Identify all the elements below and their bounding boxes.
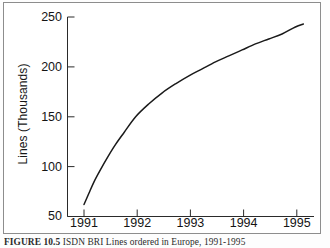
x-axis-tick-labels: 1991 1992 1993 1994 1995 [4, 217, 322, 235]
y-axis-title: Lines (Thousands) [16, 39, 30, 189]
x-tick-label-1991: 1991 [58, 217, 110, 230]
y-tick-label-150: 150 [26, 111, 62, 124]
x-tick-label-1995: 1995 [271, 217, 323, 230]
figure-number: FIGURE 10.5 [4, 237, 60, 247]
figure-container: 250 200 150 100 50 1991 1992 1993 1994 1… [0, 0, 330, 248]
y-tick-label-250: 250 [26, 11, 62, 24]
plot-area: 250 200 150 100 50 1991 1992 1993 1994 1… [4, 3, 322, 235]
x-tick-label-1993: 1993 [164, 217, 216, 230]
y-axis-ticks [68, 17, 75, 217]
x-tick-label-1994: 1994 [218, 217, 270, 230]
data-series-line [84, 24, 303, 205]
x-tick-label-1992: 1992 [111, 217, 163, 230]
y-tick-label-200: 200 [26, 61, 62, 74]
figure-caption-text: ISDN BRI Lines ordered in Europe, 1991-1… [63, 237, 246, 247]
figure-plate: 250 200 150 100 50 1991 1992 1993 1994 1… [3, 2, 321, 234]
figure-caption: FIGURE 10.5 ISDN BRI Lines ordered in Eu… [4, 237, 326, 247]
y-tick-label-100: 100 [26, 161, 62, 174]
